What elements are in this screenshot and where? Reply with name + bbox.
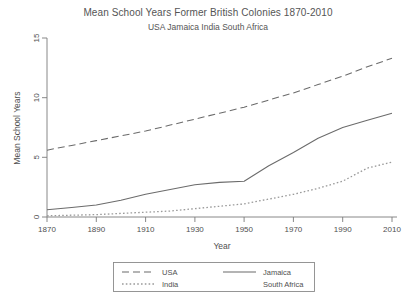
series-line-jamaica	[47, 113, 392, 210]
chart-series-group	[47, 58, 392, 216]
x-tick-label-1990: 1990	[334, 225, 352, 234]
y-tick-label-15: 15	[32, 33, 41, 42]
x-tick-label-2010: 2010	[383, 225, 401, 234]
legend-label-india: India	[162, 280, 179, 289]
y-axis-ticks: 0 5 10 15	[32, 33, 47, 219]
y-tick-label-0: 0	[32, 214, 41, 219]
x-tick-label-1890: 1890	[87, 225, 105, 234]
series-line-india	[47, 162, 392, 216]
x-tick-label-1970: 1970	[285, 225, 303, 234]
legend-label-jamaica: Jamaica	[263, 268, 292, 277]
legend-label-usa: USA	[162, 268, 177, 277]
chart-screenshot: Mean School Years Former British Colonie…	[0, 0, 416, 303]
y-tick-label-10: 10	[32, 93, 41, 102]
y-tick-label-5: 5	[32, 155, 41, 160]
x-axis-title: Year	[213, 241, 230, 251]
x-tick-label-1950: 1950	[235, 225, 253, 234]
x-tick-label-1870: 1870	[38, 225, 56, 234]
series-line-usa	[47, 58, 392, 150]
x-axis-ticks: 1870 1890 1910 1930 1950 1970 1990 2010	[38, 217, 401, 234]
x-tick-label-1910: 1910	[137, 225, 155, 234]
chart-legend: USA Jamaica India South Africa	[114, 263, 315, 292]
y-axis-title: Mean School Years	[12, 91, 22, 164]
chart-plot-area: 0 5 10 15 Mean School Years 1870 1890 19…	[0, 0, 416, 303]
legend-label-south-africa: South Africa	[263, 280, 304, 289]
x-tick-label-1930: 1930	[186, 225, 204, 234]
